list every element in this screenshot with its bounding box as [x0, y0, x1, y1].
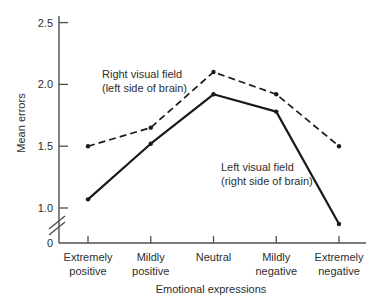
data-point-left-visual-field	[337, 222, 341, 226]
y-axis-tick-label: 2.0	[27, 77, 53, 91]
x-axis-title: Emotional expressions	[141, 283, 281, 296]
data-point-right-visual-field	[86, 144, 90, 148]
data-point-left-visual-field	[274, 109, 278, 113]
x-axis-category-label: Extremely positive	[56, 251, 120, 278]
series-annotation-left-visual-field: Left visual field (right side of brain)	[221, 161, 313, 188]
y-axis-title: Mean errors	[14, 63, 28, 183]
data-point-left-visual-field	[211, 92, 215, 96]
line-chart-figure: Mean errors Emotional expressions Right …	[0, 0, 381, 305]
y-axis-tick-label: 1.5	[27, 139, 53, 153]
data-point-right-visual-field	[149, 125, 153, 129]
data-point-right-visual-field	[211, 70, 215, 74]
data-point-right-visual-field	[337, 144, 341, 148]
y-axis-tick-label: 1.0	[27, 201, 53, 215]
x-axis-category-label: Mildly negative	[244, 251, 308, 278]
y-axis-tick-label: 0	[27, 236, 53, 250]
y-axis-break-mark	[49, 216, 65, 229]
y-axis-tick-label: 2.5	[27, 16, 53, 30]
data-point-right-visual-field	[274, 92, 278, 96]
series-line-left-visual-field	[88, 94, 339, 224]
data-point-left-visual-field	[149, 142, 153, 146]
x-axis-category-label: Mildly positive	[119, 251, 183, 278]
data-point-left-visual-field	[86, 197, 90, 201]
y-axis-break-mark	[49, 222, 65, 235]
series-annotation-right-visual-field: Right visual field (left side of brain)	[102, 68, 187, 95]
x-axis-category-label: Neutral	[182, 251, 246, 265]
x-axis-category-label: Extremely negative	[307, 251, 371, 278]
